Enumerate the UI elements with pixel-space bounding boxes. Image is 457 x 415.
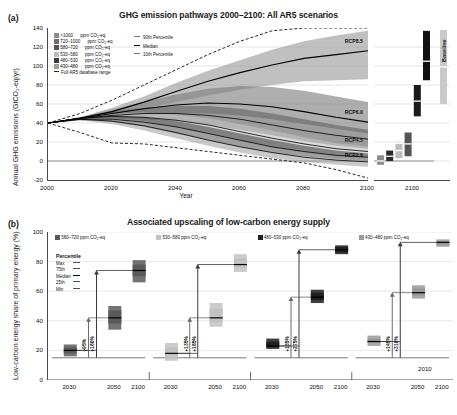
y-tick: 140 — [19, 24, 43, 31]
panel-b: (b) Associated upscaling of low-carbon e… — [0, 205, 457, 415]
panel-a-ylabel: Annual GHG emissions (GtCO₂-eq/yr) — [12, 68, 19, 186]
growth-annotation: +275% — [292, 336, 298, 352]
y-tick: 60 — [19, 100, 43, 107]
panel-a-y-axis: 140120100806040200-20 — [20, 0, 46, 205]
y-tick: 80 — [19, 258, 43, 265]
panel-b-group-legends: 580–720 ppm CO₂-eq 530–580 ppm CO₂-eq 48… — [47, 235, 452, 247]
percentile-item: Min — [56, 287, 81, 292]
x-tick: 2100 — [227, 383, 251, 390]
y-tick: 100 — [19, 228, 43, 235]
legend-swatch — [54, 52, 59, 57]
growth-annotation: +145% — [385, 336, 391, 352]
tick-sample-icon — [73, 288, 80, 289]
legend-unit: ppm CO₂-eq — [85, 64, 110, 69]
percentile-legend-item: Median — [134, 44, 173, 49]
y-tick: 40 — [19, 317, 43, 324]
line-sample-icon — [134, 45, 140, 46]
legend-swatch — [54, 39, 59, 44]
percentile-item: 75th — [56, 267, 81, 272]
legend-swatch — [54, 58, 59, 63]
percentile-label: Min — [56, 287, 70, 292]
x-tick: 2020 — [99, 184, 123, 191]
legend-unit: ppm CO₂-eq — [85, 58, 110, 63]
growth-annotation: +180% — [90, 336, 96, 352]
percentile-label: 25th — [56, 280, 70, 285]
panel-b-y-axis: 100806040200 — [20, 205, 46, 395]
legend-swatch — [54, 33, 59, 38]
y-tick: 60 — [19, 287, 43, 294]
panel-a-2100-panel — [374, 28, 450, 181]
legend-item: 530–580 ppm CO₂-eq — [54, 52, 113, 57]
group-legend: 580–720 ppm CO₂-eq — [55, 235, 105, 240]
low-carbon-share-chart: +95%+180%+135%+185%+135%+275%+145%+310% — [48, 232, 453, 380]
legend-item: 430–480 ppm CO₂-eq — [54, 64, 113, 69]
percentile-legend: Percentile Max75thMedian25thMin — [56, 253, 81, 293]
percentile-item: Max — [56, 261, 81, 266]
legend-item: 480–530 ppm CO₂-eq — [54, 58, 113, 63]
y-tick: 20 — [19, 138, 43, 145]
growth-annotation: +310% — [393, 336, 399, 352]
x-tick: 2100 — [430, 383, 454, 390]
bars-2100-chart — [374, 28, 450, 180]
legend-swatch — [359, 235, 364, 240]
x-tick: 2030 — [361, 383, 385, 390]
x-tick: 2050 — [406, 383, 430, 390]
legend-item: 580–720 ppm CO₂-eq — [54, 45, 113, 50]
legend-item: 720–1000 ppm CO₂-eq — [54, 39, 113, 44]
x-tick: 2100 — [126, 383, 150, 390]
x-tick-2100-panel: 2100 — [400, 184, 424, 191]
tick-sample-icon — [73, 281, 80, 282]
legend-swatch — [156, 235, 161, 240]
y-tick: 40 — [19, 119, 43, 126]
figure-root: (a) GHG emission pathways 2000–2100: All… — [0, 0, 457, 415]
y-tick: 100 — [19, 62, 43, 69]
group-legend: 480–530 ppm CO₂-eq — [258, 235, 308, 240]
y-tick: 80 — [19, 81, 43, 88]
legend-swatch — [54, 45, 59, 50]
growth-annotation: +185% — [191, 336, 197, 352]
legend-range: >1000 — [60, 33, 73, 38]
legend-swatch — [55, 235, 60, 240]
x-tick: 2030 — [57, 383, 81, 390]
panel-b-x-axis: 2030205021002030205021002030205021002030… — [0, 381, 457, 395]
percentile-label: Max — [56, 261, 70, 266]
growth-annotation: +95% — [82, 338, 88, 351]
legend-range: 430–480 — [60, 64, 78, 69]
panel-b-title: Associated upscaling of low-carbon energ… — [0, 217, 457, 227]
x-tick: 2100 — [329, 383, 353, 390]
group-legend: 430–480 ppm CO₂-eq — [359, 235, 409, 240]
x-tick: 2100 — [355, 184, 379, 191]
legend-range: 530–580 — [60, 52, 78, 57]
line-sample-icon — [134, 53, 140, 54]
x-tick: 2050 — [102, 383, 126, 390]
tick-sample-icon — [73, 275, 80, 276]
legend-range: 580–720 — [60, 45, 78, 50]
reference-line-label: 2010 — [418, 365, 432, 372]
panel-a-title: GHG emission pathways 2000–2100: All AR5… — [0, 10, 457, 20]
x-tick: 2030 — [159, 383, 183, 390]
percentile-legend-item: 10th Percentile — [134, 52, 173, 57]
growth-annotation: +135% — [284, 336, 290, 352]
x-tick: 2050 — [304, 383, 328, 390]
x-tick: 2030 — [260, 383, 284, 390]
legend-unit: ppm CO₂-eq — [85, 45, 110, 50]
x-tick: 2000 — [35, 184, 59, 191]
legend-unit: ppm CO₂-eq — [85, 52, 110, 57]
x-tick: 2050 — [203, 383, 227, 390]
panel-a: (a) GHG emission pathways 2000–2100: All… — [0, 0, 457, 205]
percentile-legend-title: Percentile — [56, 253, 81, 259]
percentile-item: Median — [56, 274, 81, 279]
group-legend: 530–580 ppm CO₂-eq — [156, 235, 206, 240]
percentile-label: 75th — [56, 267, 70, 272]
y-tick: 20 — [19, 346, 43, 353]
baseline-label: Baseline — [441, 39, 447, 62]
legend-swatch — [54, 64, 59, 69]
panel-b-ylabel: Low-carbon energy share of primary energ… — [12, 231, 19, 380]
line-sample-icon — [134, 36, 140, 37]
legend-range: 480–530 — [60, 58, 78, 63]
x-tick: 2080 — [291, 184, 315, 191]
x-tick: 2060 — [227, 184, 251, 191]
percentile-legend-item: 90th Percentile — [134, 35, 173, 40]
y-tick: 120 — [19, 43, 43, 50]
legend-full-range: Full AR5 database range — [54, 70, 113, 75]
